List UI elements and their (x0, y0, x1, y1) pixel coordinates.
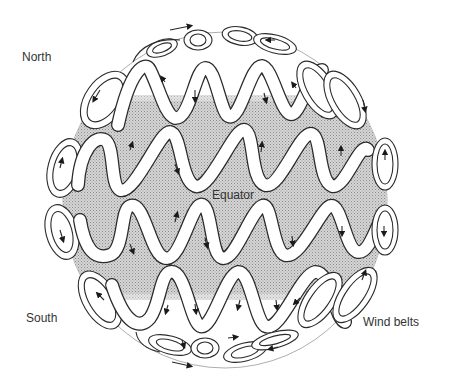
equator-label: Equator (212, 189, 254, 201)
wind-belts-diagram: North South Equator Wind belts (0, 0, 450, 388)
south-label: South (26, 312, 57, 324)
wind-belts-label: Wind belts (363, 316, 419, 328)
north-label: North (22, 51, 51, 63)
